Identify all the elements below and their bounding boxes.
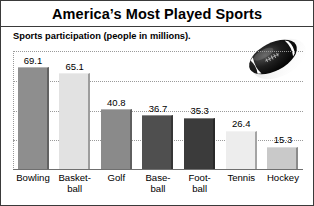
chart-title: America’s Most Played Sports <box>52 6 262 22</box>
x-label-baseball-line1: Base- <box>138 172 178 183</box>
bar-tennis[interactable] <box>226 131 257 170</box>
bar-football[interactable] <box>184 118 215 171</box>
bar-value-bowling: 69.1 <box>13 55 53 66</box>
bar-slot-golf[interactable]: 40.8 <box>96 51 136 170</box>
bar-slot-tennis[interactable]: 26.4 <box>221 51 261 170</box>
x-label-football: Foot- ball <box>180 172 220 204</box>
bar-value-basketball: 65.1 <box>55 61 95 72</box>
x-axis-labels: Bowling Basket- ball Golf Base- ball Foo… <box>13 172 303 204</box>
bar-slot-basketball[interactable]: 65.1 <box>55 51 95 170</box>
x-label-basketball: Basket- ball <box>55 172 95 204</box>
x-label-golf: Golf <box>96 172 136 204</box>
x-label-tennis-line1: Tennis <box>221 172 261 183</box>
x-label-hockey: Hockey <box>263 172 303 204</box>
bar-basketball[interactable] <box>59 73 90 170</box>
bar-value-football: 35.3 <box>180 105 220 116</box>
x-label-basketball-line2: ball <box>55 183 95 194</box>
x-axis <box>13 169 303 170</box>
bar-slot-hockey[interactable]: 15.3 <box>263 51 303 170</box>
chart-title-band: America’s Most Played Sports <box>1 1 313 27</box>
chart-subtitle: Sports participation (people in millions… <box>13 31 191 41</box>
x-label-tennis: Tennis <box>221 172 261 204</box>
x-label-baseball: Base- ball <box>138 172 178 204</box>
x-label-bowling-line1: Bowling <box>13 172 53 183</box>
bar-hockey[interactable] <box>267 147 298 170</box>
bar-value-golf: 40.8 <box>96 97 136 108</box>
x-label-baseball-line2: ball <box>138 183 178 194</box>
bar-slot-baseball[interactable]: 36.7 <box>138 51 178 170</box>
bar-value-hockey: 15.3 <box>263 134 303 145</box>
bar-series: 69.1 65.1 40.8 36.7 35.3 26.4 <box>13 51 303 170</box>
bar-slot-football[interactable]: 35.3 <box>180 51 220 170</box>
x-label-football-line2: ball <box>180 183 220 194</box>
x-label-bowling: Bowling <box>13 172 53 204</box>
bar-value-baseball: 36.7 <box>138 103 178 114</box>
chart-figure: America’s Most Played Sports Sports part… <box>0 0 314 206</box>
bar-value-tennis: 26.4 <box>221 118 261 129</box>
bar-golf[interactable] <box>101 109 132 170</box>
x-label-football-line1: Foot- <box>180 172 220 183</box>
bar-bowling[interactable] <box>18 67 49 170</box>
plot-area: 69.1 65.1 40.8 36.7 35.3 26.4 <box>13 51 303 170</box>
x-label-basketball-line1: Basket- <box>55 172 95 183</box>
bar-slot-bowling[interactable]: 69.1 <box>13 51 53 170</box>
x-label-golf-line1: Golf <box>96 172 136 183</box>
bar-baseball[interactable] <box>142 115 173 170</box>
x-label-hockey-line1: Hockey <box>263 172 303 183</box>
